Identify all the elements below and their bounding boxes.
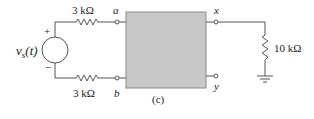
terminal-x xyxy=(214,20,218,24)
terminal-y xyxy=(214,74,218,78)
output-wire xyxy=(206,20,273,82)
terminal-b xyxy=(115,76,119,80)
terminal-x-label: x xyxy=(213,4,219,16)
terminal-b-label: b xyxy=(114,87,120,99)
source-label: vs(t) xyxy=(16,43,38,60)
terminal-a-label: a xyxy=(113,4,119,16)
bottom-branch-wire xyxy=(55,63,126,81)
source-minus: − xyxy=(45,61,51,73)
source-plus: + xyxy=(44,25,50,37)
resistor-bottom-label: 3 kΩ xyxy=(73,87,95,99)
top-branch-wire xyxy=(55,19,126,37)
figure-caption: (c) xyxy=(152,93,165,106)
resistor-bottom-zigzag xyxy=(76,75,98,81)
resistor-top-label: 3 kΩ xyxy=(72,4,94,16)
resistor-load-zigzag xyxy=(262,35,268,60)
resistor-top-zigzag xyxy=(76,19,98,25)
voltage-source xyxy=(42,37,68,63)
terminal-a xyxy=(115,20,119,24)
circuit-diagram: + − vs(t) 3 kΩ a 3 kΩ b x y 10 kΩ (c) xyxy=(0,0,314,119)
two-port-network-box xyxy=(126,12,206,88)
resistor-load-label: 10 kΩ xyxy=(274,42,301,54)
terminal-y-label: y xyxy=(213,80,219,92)
